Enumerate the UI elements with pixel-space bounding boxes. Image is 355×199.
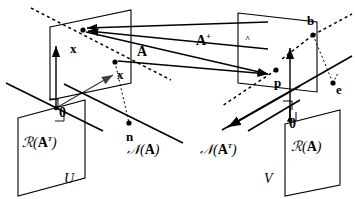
column-space-open: ℛ( [291,139,307,154]
x-hat-letter: x [70,41,77,56]
row-space-A: A [38,135,48,150]
A-plus-superscript: + [206,32,211,41]
label-e: e [336,83,342,96]
label-x-hat: ^ x [70,42,355,55]
label-x: x [117,68,124,81]
point-x [112,59,117,64]
label-b: b [307,14,314,27]
point-b [310,32,315,37]
label-p: p [274,76,281,89]
p-dotted [222,70,276,106]
label-origin-right: 0 [289,117,296,131]
point-origin-left [54,106,58,110]
b-dotted-upper [313,14,352,35]
label-space-U: U [64,172,74,186]
subspace-diagram [0,0,355,199]
left-null-space-close: ) [232,142,237,157]
label-map-A: A [137,45,147,59]
row-space-close: ) [52,135,57,150]
left-null-space-A: A [218,142,228,157]
point-n [126,120,131,125]
label-map-A-plus: A+ [196,33,211,48]
point-p [273,67,278,72]
left-null-space-line [222,56,352,130]
label-null-space: 𝒩(A) [127,143,159,157]
label-row-space: ℛ(AT) [22,136,57,150]
left-upper-plane [50,10,131,100]
column-space-A: A [307,139,317,154]
A-plus-letter: A [196,33,206,48]
null-space-open: 𝒩( [127,142,145,157]
point-x-hat [80,27,85,32]
column-space-close: ) [317,139,322,154]
label-column-space: ℛ(A) [291,140,321,154]
map-A-arrow-2 [118,61,268,74]
row-space-open: ℛ( [22,135,38,150]
null-space-A: A [145,142,155,157]
label-left-null-space: 𝒩(AT) [200,143,237,157]
point-e [330,80,335,85]
left-null-space-open: 𝒩( [200,142,218,157]
map-Aplus-arrow-1 [87,22,268,28]
label-space-V: V [264,172,273,186]
null-space-close: ) [155,142,160,157]
label-origin-left: 0 [59,106,66,120]
x-hat-mark: ^ [245,35,250,44]
